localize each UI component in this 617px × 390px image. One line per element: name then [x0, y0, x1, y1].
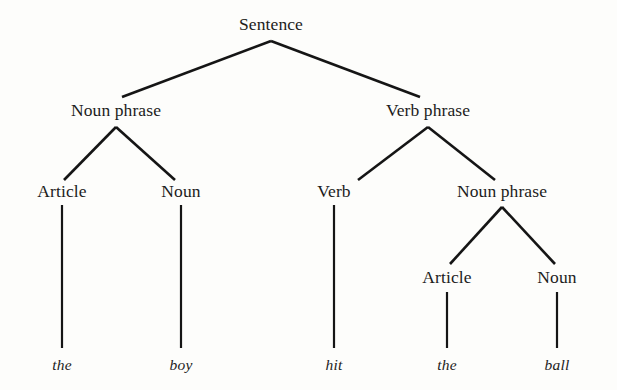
syntax-tree-figure: Sentence Noun phrase Verb phrase Article… [0, 0, 617, 390]
node-noun-phrase-subject: Noun phrase [71, 102, 161, 120]
object-noun-phrase-to-noun [502, 207, 555, 264]
sentence-to-verb-phrase [271, 41, 420, 97]
leaf-word: ball [545, 357, 570, 373]
node-verb-phrase: Verb phrase [386, 102, 470, 120]
leaf-word: boy [170, 357, 193, 373]
noun-phrase-to-noun [116, 127, 175, 180]
node-verb: Verb [317, 183, 350, 201]
node-noun-1: Noun [161, 183, 200, 201]
verb-phrase-to-verb [358, 127, 428, 180]
noun-phrase-to-article [64, 127, 116, 180]
node-article-2: Article [422, 269, 471, 287]
node-article-1: Article [37, 183, 86, 201]
verb-phrase-to-noun-phrase [428, 127, 495, 180]
object-noun-phrase-to-article [450, 207, 502, 264]
leaf-word: the [437, 357, 457, 373]
sentence-to-noun-phrase [122, 41, 271, 97]
node-noun-phrase-object: Noun phrase [457, 183, 547, 201]
leaf-word: the [52, 357, 72, 373]
node-sentence: Sentence [239, 16, 303, 34]
leaf-word: hit [326, 357, 343, 373]
node-noun-2: Noun [537, 269, 576, 287]
